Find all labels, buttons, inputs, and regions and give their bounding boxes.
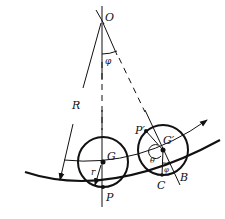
label-c: C bbox=[157, 179, 166, 192]
label-p: P bbox=[105, 191, 114, 204]
r-small-arrow bbox=[95, 165, 101, 185]
point-p-dot bbox=[101, 185, 105, 189]
label-r-big: R bbox=[71, 99, 80, 112]
label-phi-small: φ bbox=[164, 166, 169, 174]
label-p-prime: P′ bbox=[134, 124, 145, 137]
label-phi-top: φ bbox=[105, 56, 112, 66]
label-o: O bbox=[105, 11, 114, 24]
o-tick-line bbox=[96, 10, 104, 24]
radius-line-right bbox=[103, 23, 117, 55]
g-prime-to-c-line bbox=[162, 150, 163, 175]
radius-line-left bbox=[83, 23, 101, 88]
g-prime-to-p-prime-line bbox=[146, 131, 163, 150]
rolling-disk-diagram: O φ R G r P P′ G′ θ φ C B bbox=[0, 0, 225, 219]
label-g: G bbox=[107, 150, 116, 163]
label-theta: θ bbox=[150, 156, 155, 165]
phi-angle-arc bbox=[102, 51, 117, 54]
phi-small-angle-arc bbox=[163, 162, 170, 163]
r-radius-arrow bbox=[60, 124, 73, 180]
radius-line-right-dashed bbox=[119, 58, 145, 112]
center-g-dot bbox=[101, 160, 106, 165]
label-r-small: r bbox=[91, 167, 96, 177]
label-g-prime: G′ bbox=[163, 134, 175, 147]
label-b: B bbox=[179, 171, 188, 184]
